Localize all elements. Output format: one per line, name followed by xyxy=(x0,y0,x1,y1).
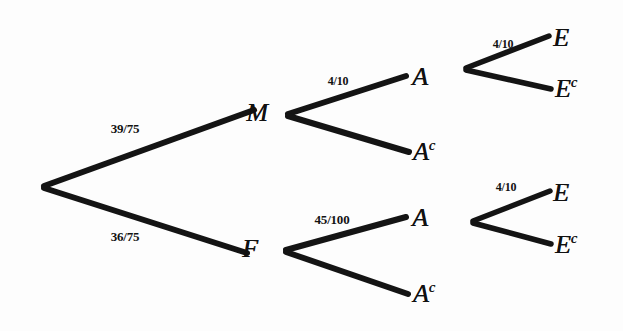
branch-a-to-ec-lower xyxy=(473,223,551,244)
node-label-ec-upper: Ec xyxy=(555,76,577,102)
node-ec-base-text: E xyxy=(555,74,571,103)
node-e-text: E xyxy=(553,23,569,52)
edge-label-f-to-a: 45/100 xyxy=(315,213,350,226)
probability-tree-diagram: M F A Ac A Ac E Ec E Ec 39/75 36/75 4/10… xyxy=(0,0,623,331)
edge-label-m-to-a: 4/10 xyxy=(328,75,349,87)
node-label-e-upper: E xyxy=(553,25,569,51)
node-ac-superscript: c xyxy=(429,138,435,153)
edge-label-a-to-e-upper: 4/10 xyxy=(493,38,514,50)
branch-root-to-m xyxy=(44,110,254,186)
branch-m-to-ac xyxy=(288,116,409,152)
node-a-text: A xyxy=(412,203,428,232)
node-ec-base-text: E xyxy=(555,230,571,259)
edge-label-root-to-f: 36/75 xyxy=(111,230,140,243)
node-ac-superscript: c xyxy=(429,280,435,295)
edge-label-a-to-e-lower: 4/10 xyxy=(496,181,517,193)
branch-f-to-ac xyxy=(286,252,408,294)
node-label-e-lower: E xyxy=(553,180,569,206)
tree-branches xyxy=(0,0,623,331)
branch-a-to-e-lower xyxy=(473,191,550,221)
node-label-f: F xyxy=(242,236,258,262)
node-label-ec-lower: Ec xyxy=(555,232,577,258)
node-label-ac-lower: Ac xyxy=(413,281,435,307)
node-label-a-lower: A xyxy=(412,205,428,231)
node-label-m: M xyxy=(246,100,268,126)
node-f-text: F xyxy=(242,234,258,263)
edge-label-root-to-m: 39/75 xyxy=(111,122,140,135)
node-ec-superscript: c xyxy=(571,231,577,246)
node-label-a-upper: A xyxy=(412,64,428,90)
node-e-text: E xyxy=(553,178,569,207)
branch-root-to-f xyxy=(44,188,247,253)
branch-a-to-ec-upper xyxy=(466,70,551,89)
node-ac-base-text: A xyxy=(413,279,429,308)
node-ec-superscript: c xyxy=(571,75,577,90)
node-m-text: M xyxy=(246,98,268,127)
node-a-text: A xyxy=(412,62,428,91)
node-ac-base-text: A xyxy=(413,137,429,166)
node-label-ac-upper: Ac xyxy=(413,139,435,165)
